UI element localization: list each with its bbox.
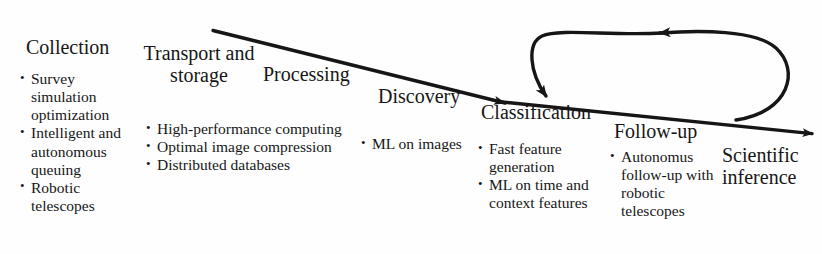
stage-heading-line-2: storage xyxy=(129,64,269,86)
stage-heading-line-1: Transport and xyxy=(129,42,269,64)
stage-heading-discovery: Discovery xyxy=(378,85,460,107)
list-item: Intelligent and autonomous queuing xyxy=(20,124,132,178)
stage-bullets-classification: Fast feature generation ML on time and c… xyxy=(478,140,602,213)
stage-heading-follow-up: Follow-up xyxy=(614,120,697,142)
stage-heading-scientific-inference: Scientific inference xyxy=(722,144,818,189)
stage-heading-classification: Classification xyxy=(481,101,591,123)
stage-heading-line-1: Scientific xyxy=(722,144,818,166)
list-item: ML on images xyxy=(361,135,479,153)
list-item: Robotic telescopes xyxy=(20,179,132,215)
list-item: Distributed databases xyxy=(146,156,366,174)
stage-heading-transport-and-storage: Transport and storage xyxy=(129,42,269,87)
list-item: ML on time and context features xyxy=(478,176,602,212)
list-item: Fast feature generation xyxy=(478,140,602,176)
stage-bullets-follow-up: Autonomus follow-up with robotic telesco… xyxy=(610,148,716,221)
list-item: Autonomus follow-up with robotic telesco… xyxy=(610,148,716,221)
list-item: High-performance computing xyxy=(146,120,366,138)
stage-bullets-collection: Survey simulation optimization Intellige… xyxy=(20,70,132,215)
stage-heading-processing: Processing xyxy=(263,63,350,85)
diagram-canvas: Collection Survey simulation optimizatio… xyxy=(0,0,822,254)
stage-bullets-transport-and-storage: High-performance computing Optimal image… xyxy=(146,120,366,174)
list-item: Optimal image compression xyxy=(146,138,366,156)
list-item: Survey simulation optimization xyxy=(20,70,132,124)
stage-heading-line-2: inference xyxy=(722,166,818,188)
stage-bullets-discovery: ML on images xyxy=(361,135,479,153)
stage-heading-collection: Collection xyxy=(26,36,109,58)
